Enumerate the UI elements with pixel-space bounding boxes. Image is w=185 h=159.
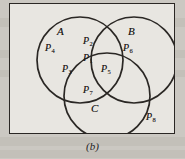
region-label-p2: P2: [83, 36, 92, 46]
region-subscript-p7: 7: [89, 89, 92, 96]
figure-caption: (b): [0, 140, 185, 152]
region-label-p7: P7: [83, 85, 92, 95]
region-subscript-p3: 3: [68, 68, 71, 75]
set-circle-a: [37, 17, 123, 103]
region-label-p6: P6: [123, 43, 132, 53]
region-label-p3: P3: [62, 64, 71, 74]
region-subscript-p2: 2: [89, 40, 92, 47]
region-subscript-p6: 6: [129, 47, 132, 54]
set-label-b: B: [128, 26, 135, 37]
region-label-p4: P4: [45, 43, 54, 53]
region-label-p8: P8: [146, 112, 155, 122]
region-subscript-p8: 8: [152, 116, 155, 123]
region-subscript-p1: 1: [89, 57, 92, 64]
region-label-p5: P5: [101, 64, 110, 74]
region-subscript-p5: 5: [107, 68, 110, 75]
set-label-c: C: [91, 103, 98, 114]
set-label-a: A: [57, 26, 64, 37]
region-label-p1: P1: [83, 53, 92, 63]
region-subscript-p4: 4: [51, 47, 54, 54]
figure-page: A B C P1 P2 P3 P4 P5 P6 P7 P8 (b): [0, 0, 185, 159]
